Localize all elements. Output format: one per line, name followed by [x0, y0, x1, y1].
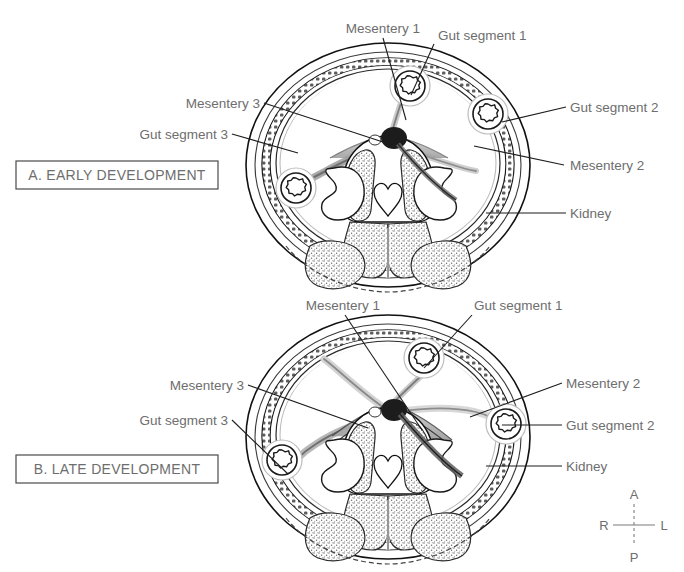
compass-anterior-label: A [630, 487, 639, 502]
gut-segment-1-b [404, 338, 444, 378]
label-gut-segment-1-b: Gut segment 1 [474, 298, 563, 313]
compass-right-label: R [599, 518, 608, 533]
panel-a-title: A. EARLY DEVELOPMENT [28, 167, 206, 183]
panel-b-title: B. LATE DEVELOPMENT [34, 461, 201, 477]
label-kidney-b: Kidney [566, 459, 608, 474]
label-gut-segment-2-a: Gut segment 2 [570, 100, 659, 115]
label-gut-segment-2-b: Gut segment 2 [566, 418, 655, 433]
label-mesentery-2-a: Mesentery 2 [570, 158, 644, 173]
label-kidney-a: Kidney [570, 206, 612, 221]
label-mesentery-1-b: Mesentery 1 [306, 298, 380, 313]
panel-b: Mesentery 1 Gut segment 1 Mesentery 3 Gu… [16, 298, 655, 564]
gut-segment-2-b [486, 404, 526, 444]
compass-posterior-label: P [630, 550, 639, 565]
label-gut-segment-3-b: Gut segment 3 [139, 413, 228, 428]
gut-segment-3-b [262, 440, 302, 480]
label-mesentery-3-b: Mesentery 3 [170, 378, 244, 393]
gut-segment-2-a [468, 94, 508, 134]
label-mesentery-1-a: Mesentery 1 [346, 21, 420, 36]
compass-left-label: L [660, 518, 667, 533]
label-gut-segment-3-a: Gut segment 3 [139, 127, 228, 142]
panel-a: Mesentery 1 Gut segment 1 Mesentery 3 Gu… [16, 21, 659, 292]
panel-a-section [246, 43, 530, 292]
gut-segment-3-a [276, 168, 316, 208]
label-mesentery-2-b: Mesentery 2 [566, 376, 640, 391]
panel-b-section [246, 315, 530, 564]
label-mesentery-3-a: Mesentery 3 [186, 96, 260, 111]
label-gut-segment-1-a: Gut segment 1 [438, 28, 527, 43]
anatomy-figure: Mesentery 1 Gut segment 1 Mesentery 3 Gu… [0, 0, 684, 572]
orientation-compass: A P R L [599, 487, 667, 565]
